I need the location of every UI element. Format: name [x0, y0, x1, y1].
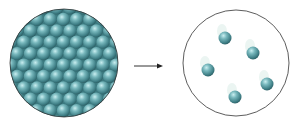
- particle: [219, 32, 232, 45]
- particle: [90, 1, 103, 14]
- transition-arrow-icon: [134, 64, 163, 69]
- particle: [50, 93, 63, 106]
- particle: [44, 81, 57, 94]
- particle: [50, 1, 63, 14]
- particle: [90, 47, 103, 60]
- particle: [0, 81, 4, 94]
- particle: [77, 115, 90, 127]
- particle: [70, 81, 83, 94]
- particle: [103, 24, 116, 37]
- particle: [96, 81, 109, 94]
- particle: [110, 13, 123, 26]
- particle: [0, 36, 4, 49]
- packed-particles-panel: [0, 0, 136, 127]
- particle: [83, 81, 96, 94]
- particle: [24, 93, 37, 106]
- particle: [57, 13, 70, 26]
- particle: [63, 24, 76, 37]
- particle: [11, 70, 24, 83]
- particle: [57, 0, 70, 3]
- particle: [123, 58, 136, 71]
- diagram-canvas: [0, 0, 300, 127]
- particle: [11, 93, 24, 106]
- particle: [83, 13, 96, 26]
- particle: [17, 13, 30, 26]
- particle: [123, 0, 136, 3]
- particle: [103, 47, 116, 60]
- particle: [57, 58, 70, 71]
- particle: [90, 93, 103, 106]
- particle: [57, 104, 70, 117]
- particle: [0, 24, 11, 37]
- particle: [63, 47, 76, 60]
- particle: [123, 81, 136, 94]
- particle: [57, 81, 70, 94]
- particle: [96, 0, 109, 3]
- particle: [37, 70, 50, 83]
- particle: [24, 24, 37, 37]
- particle: [4, 13, 17, 26]
- particle: [77, 24, 90, 37]
- particle: [37, 47, 50, 60]
- particle: [17, 36, 30, 49]
- particle: [77, 70, 90, 83]
- particle: [116, 24, 129, 37]
- particle: [70, 13, 83, 26]
- particle: [0, 70, 11, 83]
- particle: [96, 36, 109, 49]
- particle: [90, 115, 103, 127]
- particle: [0, 58, 4, 71]
- particle: [24, 115, 37, 127]
- particle: [50, 70, 63, 83]
- particle: [90, 70, 103, 83]
- particle: [116, 70, 129, 83]
- particle: [110, 58, 123, 71]
- particle: [0, 1, 11, 14]
- particle: [103, 1, 116, 14]
- particle: [202, 64, 215, 77]
- particle: [30, 104, 43, 117]
- particle: [17, 0, 30, 3]
- particle: [50, 24, 63, 37]
- particle: [57, 36, 70, 49]
- particle: [63, 1, 76, 14]
- particle: [70, 0, 83, 3]
- particle: [247, 47, 260, 60]
- particle: [30, 36, 43, 49]
- particle: [30, 58, 43, 71]
- particle: [229, 91, 242, 104]
- particle: [37, 115, 50, 127]
- particle: [116, 93, 129, 106]
- particle: [0, 13, 4, 26]
- particle: [44, 36, 57, 49]
- particle: [63, 70, 76, 83]
- particle: [37, 24, 50, 37]
- particle: [77, 93, 90, 106]
- particle: [4, 0, 17, 3]
- particle: [103, 93, 116, 106]
- particle: [96, 104, 109, 117]
- particle: [110, 104, 123, 117]
- particle: [123, 104, 136, 117]
- particle: [4, 81, 17, 94]
- particle: [37, 93, 50, 106]
- diagram: [0, 0, 300, 127]
- particle: [83, 58, 96, 71]
- particle: [11, 47, 24, 60]
- particle: [123, 13, 136, 26]
- particle: [11, 1, 24, 14]
- particle: [70, 58, 83, 71]
- particle: [30, 0, 43, 3]
- particle: [24, 70, 37, 83]
- particle: [44, 58, 57, 71]
- particle: [24, 47, 37, 60]
- particle: [116, 1, 129, 14]
- particle: [96, 13, 109, 26]
- particle: [63, 93, 76, 106]
- particle: [70, 36, 83, 49]
- particle: [0, 115, 11, 127]
- particle: [123, 36, 136, 49]
- particle: [17, 58, 30, 71]
- particle: [44, 13, 57, 26]
- dispersed-particles-panel: [183, 10, 289, 116]
